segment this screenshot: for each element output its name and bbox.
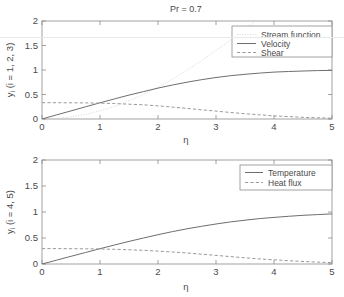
curve-temperature (42, 214, 332, 264)
top-panel-ytick-3: 1.5 (25, 40, 38, 51)
bottom-panel: 0 1 2 3 4 5 0 0.5 1 1.5 2 η yi (i = 4, 5… (4, 154, 335, 292)
svg-text:yi (i = 4, 5): yi (i = 4, 5) (4, 190, 16, 234)
bottom-panel-xtick-3: 3 (213, 266, 218, 277)
top-panel-xtick-2: 2 (155, 121, 160, 132)
curve-heat-flux (42, 249, 332, 263)
figure-container: Pr = 0.7 (0, 0, 344, 297)
top-panel-ytick-2: 1 (33, 64, 38, 75)
legend-label-temperature: Temperature (268, 168, 316, 178)
bottom-panel-xlabel: η (183, 281, 188, 292)
top-panel-ytick-4: 2 (33, 15, 38, 26)
bottom-panel-xtick-1: 1 (97, 266, 102, 277)
bottom-panel-xtick-0: 0 (39, 266, 44, 277)
bottom-panel-curves (42, 214, 332, 264)
top-panel-xtick-5: 5 (329, 121, 334, 132)
curve-velocity (42, 70, 332, 119)
plot-svg: Pr = 0.7 (0, 0, 344, 297)
top-panel-xtick-4: 4 (271, 121, 276, 132)
curve-shear (42, 103, 332, 119)
bottom-panel-ylabel-suffix: (i = 4, 5) (4, 190, 15, 228)
bottom-panel-ytick-1: 0.5 (25, 232, 38, 243)
top-panel-title: Pr = 0.7 (170, 4, 202, 14)
top-panel: Pr = 0.7 (4, 0, 335, 145)
bottom-panel-xtick-4: 4 (271, 266, 276, 277)
top-panel-ytick-0: 0 (33, 113, 38, 124)
legend-label-shear: Shear (261, 48, 284, 58)
legend-label-heat-flux: Heat flux (268, 178, 302, 188)
top-panel-curves (42, 0, 332, 119)
top-panel-legend[interactable]: Stream function Velocity Shear (232, 26, 332, 58)
top-panel-xtick-1: 1 (97, 121, 102, 132)
bottom-panel-legend[interactable]: Temperature Heat flux (240, 165, 332, 190)
bottom-panel-ytick-3: 1.5 (25, 180, 38, 191)
curve-stream-function (42, 0, 332, 119)
top-panel-ylabel-suffix: (i = 1, 2, 3) (4, 43, 15, 91)
svg-text:yi (i = 1, 2, 3): yi (i = 1, 2, 3) (4, 43, 16, 98)
bottom-panel-xtick-2: 2 (155, 266, 160, 277)
top-panel-ylabel: yi (i = 1, 2, 3) (4, 43, 16, 98)
top-panel-xtick-3: 3 (213, 121, 218, 132)
bottom-panel-xtick-5: 5 (329, 266, 334, 277)
top-panel-ytick-1: 0.5 (25, 89, 38, 100)
bottom-panel-ytick-4: 2 (33, 154, 38, 165)
bottom-panel-ytick-0: 0 (33, 258, 38, 269)
top-panel-xtick-0: 0 (39, 121, 44, 132)
top-panel-xlabel: η (183, 134, 188, 145)
bottom-panel-ytick-2: 1 (33, 206, 38, 217)
bottom-panel-ylabel: yi (i = 4, 5) (4, 190, 16, 234)
